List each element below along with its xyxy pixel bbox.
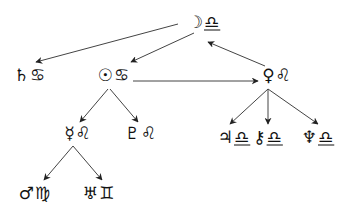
libra-sign-icon: ♎ — [234, 127, 250, 147]
node-pluto-leo: ♇♌ — [125, 125, 158, 142]
node-mercury-leo: ☿♌ — [64, 125, 92, 142]
virgo-sign-icon: ♍ — [35, 183, 51, 203]
jupiter-planet-icon: ♃ — [218, 127, 234, 147]
edge-arrow-sun-cancer-to-pluto-leo — [110, 89, 138, 122]
cancer-sign-icon: ♋ — [30, 65, 46, 85]
moon-planet-icon: ☽ — [188, 12, 204, 32]
cancer-sign-icon: ♋ — [114, 65, 130, 85]
gemini-sign-icon: ♊ — [99, 183, 115, 203]
node-saturn-cancer: ♄♋ — [14, 67, 47, 84]
edge-arrow-moon-libra-to-saturn-cancer — [36, 24, 178, 62]
edge-arrow-moon-libra-to-sun-cancer — [131, 33, 194, 62]
mercury-planet-icon: ☿ — [64, 123, 75, 143]
node-uranus-gemini: ♅♊ — [83, 185, 116, 202]
pluto-planet-icon: ♇ — [125, 123, 141, 143]
leo-sign-icon: ♌ — [141, 123, 157, 143]
uranus-planet-icon: ♅ — [83, 183, 99, 203]
edge-arrow-mercury-leo-to-mars-virgo — [44, 146, 73, 180]
saturn-planet-icon: ♄ — [14, 65, 30, 85]
libra-sign-icon: ♎ — [267, 127, 283, 147]
edge-arrow-sun-cancer-to-mercury-leo — [80, 89, 108, 122]
edge-arrow-mercury-leo-to-uranus-gemini — [73, 146, 102, 180]
libra-sign-icon: ♎ — [318, 127, 334, 147]
edge-arrow-venus-leo-to-neptune-libra — [268, 89, 318, 124]
edges-layer — [0, 0, 349, 211]
node-jupiter-libra: ♃♎ — [218, 129, 251, 146]
libra-sign-icon: ♎ — [204, 12, 220, 32]
node-neptune-libra: ♆♎ — [302, 129, 335, 146]
edge-arrow-venus-leo-to-jupiter-libra — [230, 89, 268, 124]
node-venus-leo: ♀♌ — [262, 67, 292, 84]
leo-sign-icon: ♌ — [276, 65, 292, 85]
dispositor-tree-diagram: ☽♎♄♋☉♋♀♌☿♌♇♌♃♎⚷♎♆♎♂♍♅♊ — [0, 0, 349, 211]
node-chiron-libra: ⚷♎ — [253, 129, 283, 146]
edge-arrow-venus-leo-to-moon-libra — [208, 42, 265, 66]
leo-sign-icon: ♌ — [76, 123, 92, 143]
node-moon-libra: ☽♎ — [188, 14, 221, 31]
sun-planet-icon: ☉ — [98, 65, 114, 85]
node-mars-virgo: ♂♍ — [19, 185, 52, 202]
node-sun-cancer: ☉♋ — [98, 67, 131, 84]
chiron-planet-icon: ⚷ — [253, 127, 266, 147]
neptune-planet-icon: ♆ — [302, 127, 318, 147]
mars-planet-icon: ♂ — [19, 183, 35, 203]
venus-planet-icon: ♀ — [262, 65, 275, 85]
